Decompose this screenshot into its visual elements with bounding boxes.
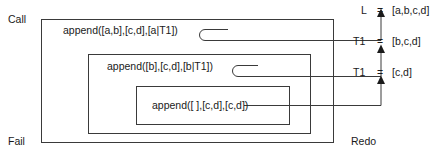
call-port-label: Call (8, 14, 26, 25)
middle-result-value-label: [b,c,d] (392, 36, 421, 47)
outer-frame-return-loop (200, 30, 343, 41)
redo-port-label: Redo (351, 136, 376, 147)
outer-frame-goal-text: append([a,b],[c,d],[a|T1]) (63, 25, 178, 36)
outer-result-equals-label: = (377, 5, 383, 16)
inner-result-var-label: T1 (353, 67, 365, 78)
middle-result-equals-label: = (377, 36, 383, 47)
outer-result-var-label: L (361, 5, 367, 16)
fail-port-label: Fail (8, 136, 25, 147)
inner-result-equals-label: = (377, 67, 383, 78)
outer-result-value-label: [a,b,c,d] (392, 5, 429, 16)
inner-frame-goal-text: append([ ],[c,d],[c,d]) (152, 100, 248, 111)
middle-frame-return-loop (233, 66, 343, 77)
prolog-trace-diagram: Call Fail Redo append([a,b],[c,d],[a|T1]… (0, 0, 444, 161)
inner-result-value-label: [c,d] (392, 67, 412, 78)
middle-frame-goal-text: append([b],[c,d],[b|T1]) (107, 61, 213, 72)
middle-result-var-label: T1 (353, 36, 365, 47)
